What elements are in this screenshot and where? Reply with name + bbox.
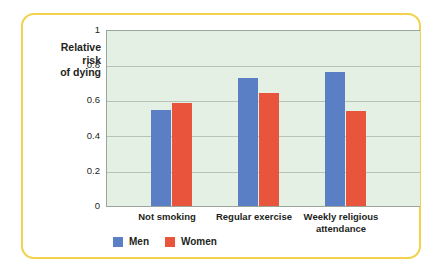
x-axis-line (106, 206, 420, 207)
y-tick-label-0.2: 0.2 (60, 166, 100, 176)
x-tick-label-weekly-religious: Weekly religious attendance (286, 211, 396, 234)
bar-women-regular-exercise[interactable] (259, 93, 279, 207)
bar-men-not-smoking[interactable] (151, 110, 171, 206)
legend-swatch-women-icon (165, 237, 175, 247)
figure-frame: Relative risk of dying 1 0.8 0.6 0.4 0.2… (21, 13, 421, 259)
legend: Men Women (113, 237, 217, 247)
legend-label-women: Women (181, 237, 217, 247)
bars-layer (107, 30, 420, 206)
legend-label-men: Men (129, 237, 149, 247)
y-tick-label-0.4: 0.4 (60, 131, 100, 141)
bar-women-not-smoking[interactable] (172, 103, 192, 206)
bar-chart: Relative risk of dying 1 0.8 0.6 0.4 0.2… (23, 15, 423, 261)
bar-men-weekly-religious[interactable] (325, 72, 345, 206)
legend-item-women[interactable]: Women (165, 237, 217, 247)
y-tick-label-0.6: 0.6 (60, 95, 100, 105)
bar-women-weekly-religious[interactable] (346, 111, 366, 206)
y-axis-title-line-1: Relative (29, 41, 101, 54)
y-tick-label-1: 1 (60, 25, 100, 35)
bar-men-regular-exercise[interactable] (238, 78, 258, 207)
y-tick-label-0.8: 0.8 (60, 60, 100, 70)
legend-item-men[interactable]: Men (113, 237, 149, 247)
legend-swatch-men-icon (113, 237, 123, 247)
x-tick-label-weekly-religious-line-2: attendance (286, 223, 396, 235)
y-tick-label-0: 0 (60, 201, 100, 211)
x-tick-label-weekly-religious-line-1: Weekly religious (286, 211, 396, 223)
